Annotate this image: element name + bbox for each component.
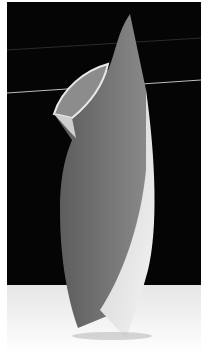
- sculpture-image: [0, 0, 208, 358]
- sculpture-photo: [0, 0, 208, 358]
